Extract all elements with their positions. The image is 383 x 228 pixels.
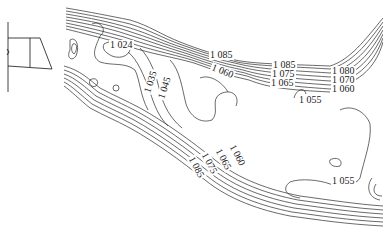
contour-label-1055: 1 055 xyxy=(331,176,356,186)
contour-lines xyxy=(0,0,383,228)
contour-label-1024: 1 024 xyxy=(109,40,134,50)
contour-map: 1 024 1 035 1 045 1 085 1 060 1 085 1 07… xyxy=(0,0,383,228)
contour-label-1065: 1 065 xyxy=(270,78,295,88)
cross-section-inset xyxy=(7,22,52,92)
contour-label-1060: 1 060 xyxy=(331,84,356,94)
contour-label-1085: 1 085 xyxy=(209,50,234,60)
contour-label-1055: 1 055 xyxy=(298,95,323,105)
